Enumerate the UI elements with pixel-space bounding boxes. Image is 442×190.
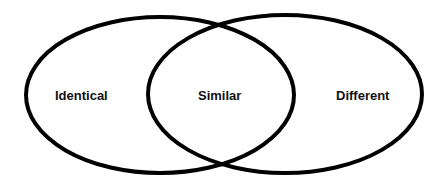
- region-label-similar: Similar: [198, 89, 241, 103]
- region-label-different: Different: [336, 89, 389, 103]
- region-label-identical: Identical: [55, 89, 108, 103]
